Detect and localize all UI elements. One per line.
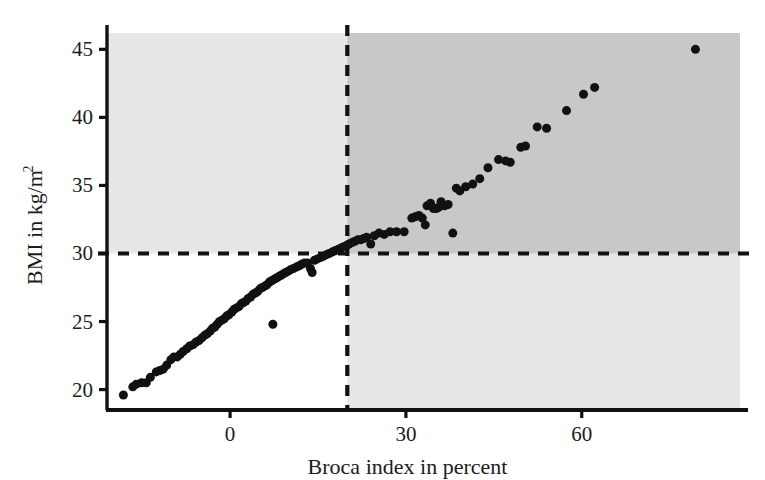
data-point [533, 122, 542, 131]
y-tick-label-35: 35 [72, 173, 93, 197]
data-point [691, 45, 700, 54]
data-point [562, 106, 571, 115]
y-tick-label-40: 40 [72, 105, 93, 129]
data-point [400, 227, 409, 236]
data-point [475, 174, 484, 183]
x-axis-title: Broca index in percent [308, 454, 508, 479]
data-point [366, 239, 375, 248]
data-point [506, 158, 515, 167]
chart-canvas: 20253035404503060Broca index in percentB… [0, 0, 765, 480]
region-both-obese-overlap [347, 33, 740, 253]
y-tick-label-30: 30 [72, 241, 93, 265]
data-point [444, 200, 453, 209]
y-axis-title-exponent: 2 [21, 166, 36, 173]
data-point [468, 180, 477, 189]
y-axis-title-text: BMI in kg/m [22, 170, 47, 285]
data-point [421, 220, 430, 229]
y-tick-label-25: 25 [72, 310, 93, 334]
y-axis-title: BMI in kg/m2 [21, 166, 47, 285]
y-tick-label-20: 20 [72, 378, 93, 402]
x-tick-label-60: 60 [571, 422, 592, 446]
data-point [579, 90, 588, 99]
scatter-plot-figure: 20253035404503060Broca index in percentB… [0, 0, 765, 480]
data-point [521, 141, 530, 150]
data-point [590, 83, 599, 92]
data-point [268, 320, 277, 329]
y-tick-label-45: 45 [72, 37, 93, 61]
data-point [119, 391, 128, 400]
data-point [308, 268, 317, 277]
x-tick-label-0: 0 [225, 422, 236, 446]
x-tick-label-30: 30 [395, 422, 416, 446]
data-point [542, 124, 551, 133]
data-point [448, 229, 457, 238]
data-point [483, 163, 492, 172]
